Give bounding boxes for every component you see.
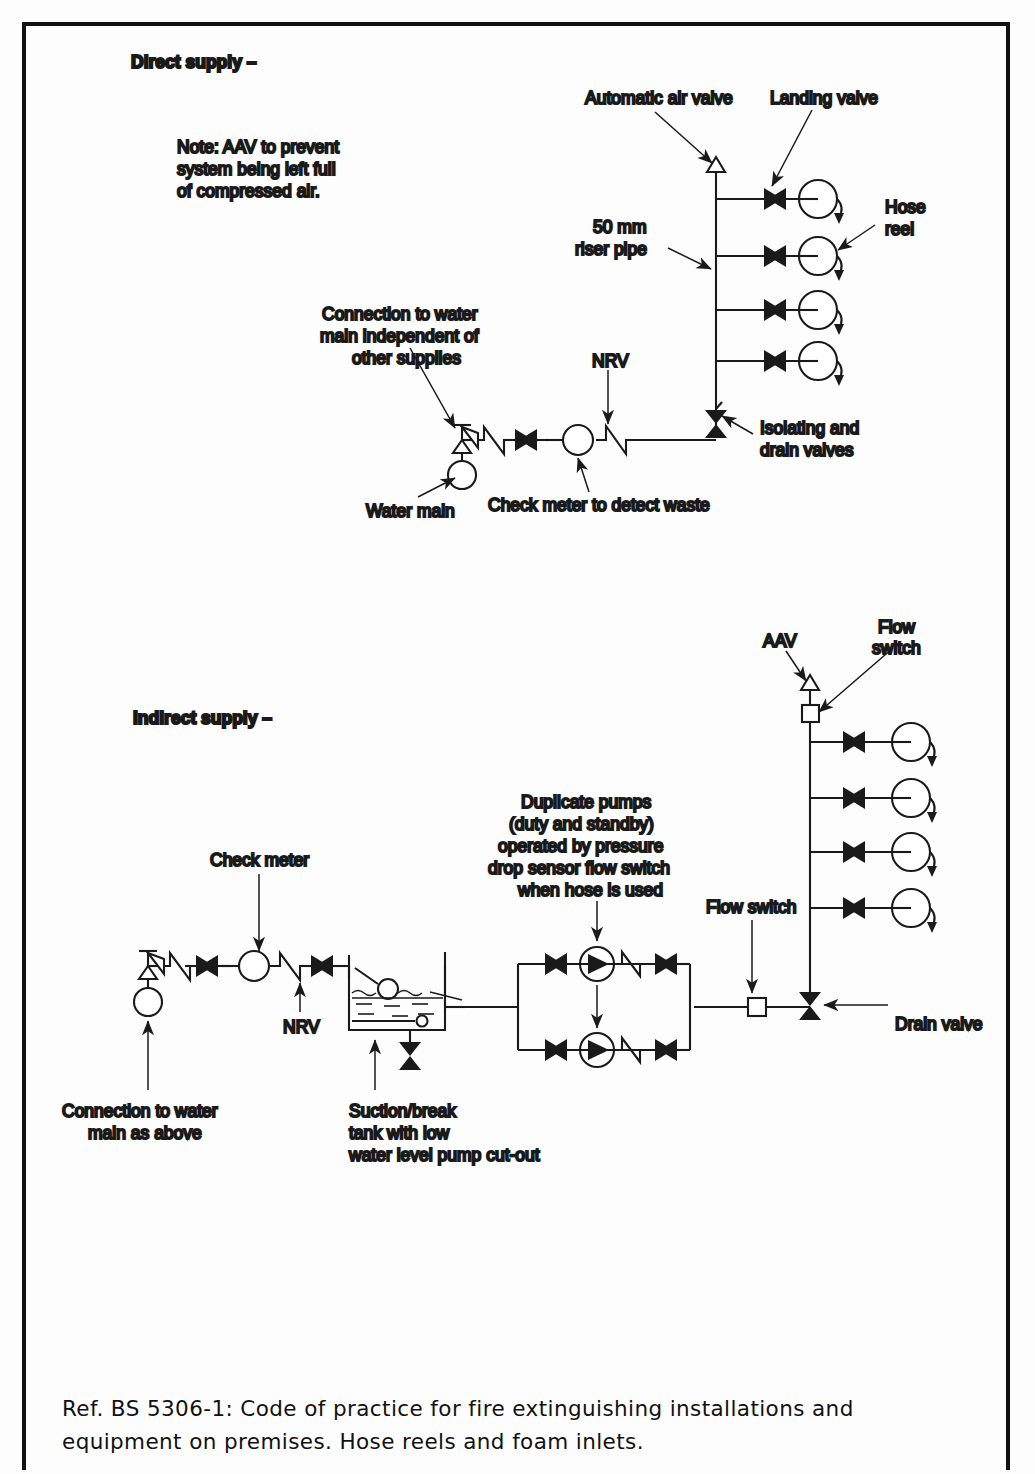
hose-reel-branch [716, 180, 844, 224]
label-flow-switch-top-line2: switch [872, 638, 921, 658]
nrv-symbol [596, 426, 635, 454]
hose-reel-branch [810, 779, 937, 823]
caption-line-2: equipment on premises. Hose reels and fo… [62, 1425, 992, 1458]
label-connection-line2: main independent of [320, 326, 479, 346]
pump-assembly [518, 947, 690, 981]
caption-line-1: Ref. BS 5306-1: Code of practice for fir… [62, 1392, 992, 1425]
stop-valve-symbol [139, 951, 164, 989]
label-tank-line1: Suction/break [349, 1101, 456, 1121]
water-main-symbol [448, 461, 476, 489]
label-pumps-line1: Duplicate pumps [521, 792, 652, 812]
label-drain-valve: Drain valve [895, 1014, 983, 1034]
label-water-main: Water main [366, 501, 455, 521]
label-flow-switch-top-line1: Flow [878, 617, 915, 637]
label-isolating-line1: Isolating and [760, 418, 859, 438]
direct-supply-title: Direct supply – [131, 52, 257, 72]
isolating-drain-valve-symbol [705, 402, 727, 438]
label-check-meter-direct: Check meter to detect waste [488, 495, 710, 515]
duplicate-pump-loop [465, 964, 690, 1050]
gate-valve-symbol [504, 429, 548, 451]
label-landing-valve: Landing valve [770, 88, 878, 108]
indirect-supply-title: Indirect supply – [133, 708, 272, 728]
label-connection-indirect-line2: main as above [88, 1123, 202, 1143]
label-aav-indirect: AAV [763, 631, 797, 651]
pump-assembly [518, 1033, 690, 1067]
nrv-symbol [162, 953, 194, 980]
nrv-symbol [270, 953, 304, 980]
suction-break-tank [349, 952, 465, 1070]
label-isolating-line2: drain valves [760, 440, 854, 460]
hose-reel-schematic: Direct supply – Note: AAV to prevent sys… [0, 0, 1035, 1474]
hose-reel-branch [810, 833, 937, 877]
nrv-symbol [476, 427, 508, 454]
label-tank-line3: water level pump cut-out [348, 1145, 540, 1165]
water-main-symbol [134, 988, 162, 1016]
label-flow-switch-mid: Flow switch [706, 897, 796, 917]
flow-switch-symbol [748, 998, 766, 1016]
note-line-1: Note: AAV to prevent [177, 137, 339, 157]
flow-switch-symbol [802, 705, 819, 722]
note-line-2: system being left full [177, 159, 336, 179]
hose-reel-branch [716, 237, 844, 281]
hose-reel-branch [810, 723, 937, 767]
label-pumps-line4: drop sensor flow switch [488, 858, 670, 878]
direct-supply-diagram: Direct supply – Note: AAV to prevent sys… [131, 52, 926, 521]
label-nrv-indirect: NRV [283, 1017, 320, 1037]
label-hose-reel-line2: reel [885, 219, 914, 239]
reference-caption: Ref. BS 5306-1: Code of practice for fir… [62, 1392, 992, 1458]
label-automatic-air-valve: Automatic air valve [585, 88, 733, 108]
label-pumps-line3: operated by pressure [498, 836, 663, 856]
page-canvas: Direct supply – Note: AAV to prevent sys… [0, 0, 1035, 1474]
label-hose-reel-line1: Hose [885, 197, 926, 217]
indirect-supply-diagram: Indirect supply – AAV Flow switch Check … [62, 617, 983, 1165]
label-pumps-line5: when hose is used [517, 880, 663, 900]
label-connection-indirect-line1: Connection to water [62, 1101, 218, 1121]
automatic-air-valve-symbol [707, 157, 725, 172]
label-riser-line1: 50 mm [593, 217, 646, 237]
label-connection-line1: Connection to water [322, 304, 478, 324]
stop-valve-symbol [453, 425, 478, 463]
check-meter-symbol [546, 425, 593, 455]
hose-reel-branch [716, 342, 844, 386]
hose-reel-branch [810, 889, 937, 933]
gate-valve-symbol [300, 955, 349, 977]
label-check-meter-indirect: Check meter [210, 850, 309, 870]
label-connection-line3: other supplies [352, 348, 461, 368]
label-pumps-line2: (duty and standby) [509, 814, 654, 834]
label-tank-line2: tank with low [349, 1123, 450, 1143]
hose-reel-branch [716, 291, 844, 335]
label-nrv-direct: NRV [592, 351, 629, 371]
label-riser-line2: riser pipe [575, 239, 647, 259]
note-line-3: of compressed air. [177, 181, 320, 201]
